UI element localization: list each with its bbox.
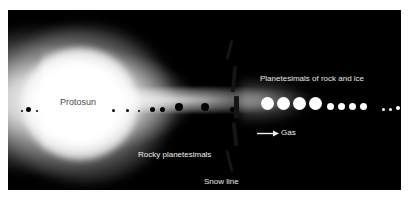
gas-flow-arrow-icon [257,130,279,137]
label-protosun: Protosun [60,98,96,107]
icy-planetesimal [360,103,367,110]
snow-line-dash [232,122,239,146]
label-icy-planetesimals: Planetesimals of rock and ice [260,75,364,83]
label-snow-line: Snow line [204,178,239,186]
label-gas: Gas [281,129,296,137]
icy-planetesimal [349,103,356,110]
snow-line-dash [231,66,238,92]
icy-planetesimal [261,97,274,110]
diagram-panel: Protosun Rocky planetesimals Planetesima… [8,10,401,190]
icy-planetesimal [389,108,392,111]
icy-planetesimal [396,106,400,110]
label-rocky-planetesimals: Rocky planetesimals [138,151,211,159]
protoplanetary-disk-figure: Protosun Rocky planetesimals Planetesima… [0,0,411,212]
snow-line-dash [226,40,234,60]
icy-planetesimal [338,103,345,110]
snow-line-dash [234,96,239,118]
snow-line-dash [225,150,233,172]
icy-planetesimal [293,97,306,110]
icy-planetesimal [327,103,334,110]
icy-planetesimal [277,97,290,110]
icy-planetesimal [382,108,385,111]
icy-planetesimal [309,97,322,110]
